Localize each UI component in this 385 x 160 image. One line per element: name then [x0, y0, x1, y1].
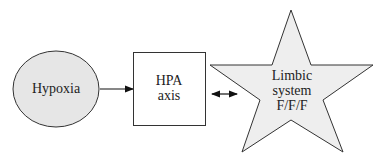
limbic-label-line3: F/F/F — [256, 98, 328, 113]
limbic-label-line1: Limbic — [256, 68, 328, 83]
limbic-label: Limbic system F/F/F — [256, 68, 328, 113]
hpa-label: HPA axis — [133, 73, 205, 103]
hpa-label-line2: axis — [133, 88, 205, 103]
hpa-label-line1: HPA — [133, 73, 205, 88]
hypoxia-label: Hypoxia — [13, 81, 99, 96]
limbic-label-line2: system — [256, 83, 328, 98]
